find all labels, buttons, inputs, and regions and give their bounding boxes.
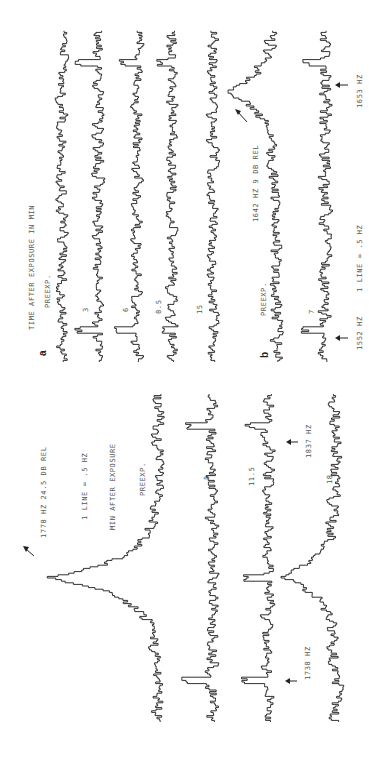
panel-b-letter: b <box>259 352 270 358</box>
panel-a-letter: a <box>37 350 48 356</box>
panel-c-11.5-label: 11.5 <box>248 467 256 486</box>
panel-c-1738-label: 1738 HZ <box>304 646 312 680</box>
panel-b-peak-label: 1642 HZ 9 DB REL <box>252 145 260 222</box>
panel-a-title: TIME AFTER EXPOSURE IN MIN <box>28 205 36 330</box>
panel-c-peak-label: 1778 HZ 24.5 DB REL <box>40 447 48 538</box>
panel-a-preexp-label: PREEXP. <box>44 274 52 308</box>
panel-c-preexp-label: PREEXP. <box>139 462 147 496</box>
panel-b-scale-label: 1 LINE = .5 HZ <box>356 225 364 292</box>
arrowhead-1738 <box>285 678 290 684</box>
panel-b-1552-label: 1552 HZ <box>356 316 364 350</box>
arrow-1778-peak <box>26 549 34 556</box>
trace-panel-c-5 <box>182 394 219 722</box>
arrowhead-1552 <box>335 335 340 341</box>
arrowhead-1837 <box>286 439 291 445</box>
panel-a-6-label: 6 <box>122 307 130 312</box>
trace-panel-a-preexp. <box>55 31 68 362</box>
panel-c-scale-label: 1 LINE = .5 HZ <box>81 453 89 520</box>
arrow-1642-peak <box>238 112 247 122</box>
arrowhead-1653 <box>335 82 340 88</box>
panel-c-title-label: MIN AFTER EXPOSURE <box>109 443 117 530</box>
trace-panel-b-7 <box>301 31 332 362</box>
panel-a-8.5-label: 8.5 <box>155 300 163 314</box>
panel-a-3-label: 3 <box>82 307 90 312</box>
spectra-figure: TIME AFTER EXPOSURE IN MIN PREEXP. a 3 6… <box>0 0 369 758</box>
panel-b-preexp-label: PREEXP. <box>260 282 268 316</box>
panel-a-15-label: 15 <box>196 304 204 314</box>
panel-c-1837-label: 1837 HZ <box>305 424 313 458</box>
panel-b-7-label: 7 <box>308 309 316 314</box>
trace-panel-c-preexp. <box>47 394 164 722</box>
panel-b-1653-label: 1653 HZ <box>356 74 364 108</box>
trace-panel-a-15 <box>206 31 219 362</box>
trace-panel-c-11.5 <box>242 394 276 722</box>
